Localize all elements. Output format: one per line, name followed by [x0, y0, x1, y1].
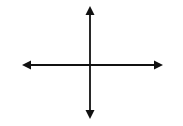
coordinate-axes-diagram [0, 0, 183, 126]
